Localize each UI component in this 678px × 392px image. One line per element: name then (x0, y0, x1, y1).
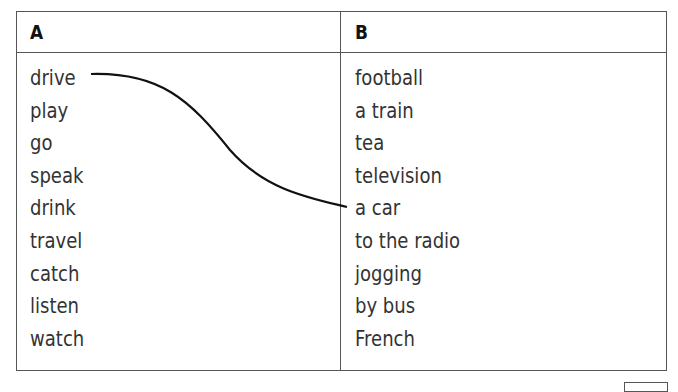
answer-box (624, 382, 668, 392)
